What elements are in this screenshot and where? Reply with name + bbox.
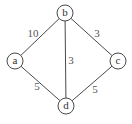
node-c: c bbox=[110, 53, 126, 69]
node-a-label: a bbox=[13, 54, 18, 66]
weighted-graph-diagram: 10 3 3 5 5 a b c d bbox=[0, 0, 132, 124]
node-d-label: d bbox=[63, 99, 69, 111]
edge-weight-b-d: 3 bbox=[68, 54, 74, 66]
edge-weight-a-b: 10 bbox=[28, 27, 40, 39]
node-d: d bbox=[58, 98, 74, 114]
edge-a-d bbox=[15, 61, 66, 106]
edge-a-b bbox=[15, 13, 65, 61]
node-b-label: b bbox=[62, 6, 68, 18]
node-a: a bbox=[7, 53, 23, 69]
edge-b-d bbox=[65, 13, 66, 106]
edge-weight-b-c: 3 bbox=[94, 27, 100, 39]
node-c-label: c bbox=[116, 54, 121, 66]
edge-weight-d-c: 5 bbox=[92, 83, 98, 95]
edge-labels: 10 3 3 5 5 bbox=[28, 27, 101, 95]
edge-weight-a-d: 5 bbox=[34, 80, 40, 92]
node-b: b bbox=[57, 5, 73, 21]
